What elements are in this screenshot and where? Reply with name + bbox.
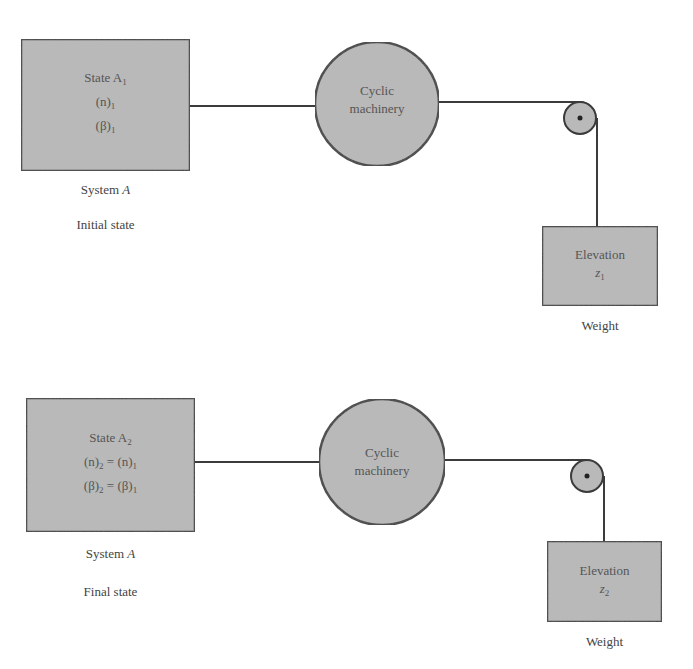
weight-box-text: Elevation z2	[547, 562, 662, 602]
parameter-vector: (β)2 = (β)1	[26, 476, 195, 500]
system-label: System A	[26, 546, 195, 562]
parameter-vector: (β)1	[21, 116, 190, 140]
system-box-text: State A2 (n)2 = (n)1 (β)2 = (β)1	[26, 428, 195, 500]
mole-vector: (n)1	[21, 92, 190, 116]
elevation-title: Elevation	[547, 562, 662, 580]
weight-box-text: Elevation z1	[542, 246, 658, 286]
elevation-var: z2	[547, 580, 662, 602]
machinery-label: Cyclic machinery	[315, 82, 439, 118]
system-box-text: State A1 (n)1 (β)1	[21, 68, 190, 140]
weight-label: Weight	[542, 318, 658, 334]
elevation-var: z1	[542, 264, 658, 286]
state-title: State A2	[26, 428, 195, 452]
system-label: System A	[21, 182, 190, 198]
pulley-axle	[578, 116, 583, 121]
pulley-axle	[585, 474, 590, 479]
state-title: State A1	[21, 68, 190, 92]
weight-label: Weight	[547, 634, 662, 650]
state-label: Final state	[26, 584, 195, 600]
machinery-label: Cyclic machinery	[320, 444, 444, 480]
elevation-title: Elevation	[542, 246, 658, 264]
state-label: Initial state	[21, 217, 190, 233]
mole-vector: (n)2 = (n)1	[26, 452, 195, 476]
